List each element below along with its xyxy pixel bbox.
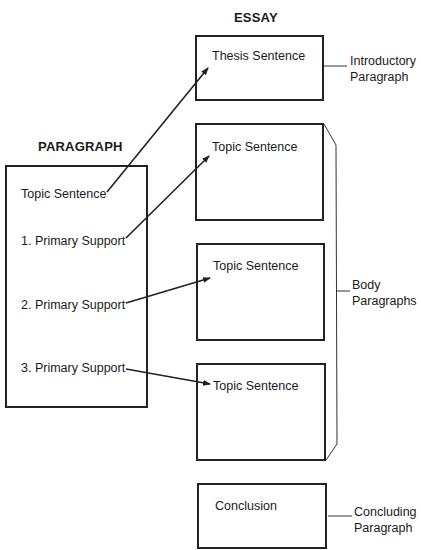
essay-box-body-3: Topic Sentence xyxy=(196,363,326,461)
paragraph-primary-support-3: 3. Primary Support xyxy=(21,361,125,375)
concluding-label-line2: Paragraph xyxy=(354,520,417,536)
concluding-label-line1: Concluding xyxy=(354,504,417,520)
thesis-sentence-text: Thesis Sentence xyxy=(212,49,305,63)
paragraph-heading: PARAGRAPH xyxy=(38,139,123,154)
paragraph-primary-support-1: 1. Primary Support xyxy=(21,234,125,248)
essay-box-body-1: Topic Sentence xyxy=(195,123,324,221)
body-2-topic-sentence-text: Topic Sentence xyxy=(213,259,298,273)
essay-box-conclusion: Conclusion xyxy=(197,483,327,549)
body-paragraphs-label: Body Paragraphs xyxy=(352,277,417,309)
essay-heading: ESSAY xyxy=(234,10,278,25)
concluding-paragraph-label: Concluding Paragraph xyxy=(354,504,417,536)
body-label-line2: Paragraphs xyxy=(352,293,417,309)
introductory-label-line1: Introductory xyxy=(350,53,416,69)
body-3-topic-sentence-text: Topic Sentence xyxy=(213,379,298,393)
introductory-label-line2: Paragraph xyxy=(350,69,416,85)
body-1-topic-sentence-text: Topic Sentence xyxy=(212,140,297,154)
essay-box-body-2: Topic Sentence xyxy=(196,243,325,341)
paragraph-topic-sentence: Topic Sentence xyxy=(21,187,106,201)
introductory-paragraph-label: Introductory Paragraph xyxy=(350,53,416,85)
body-label-line1: Body xyxy=(352,277,417,293)
conclusion-text: Conclusion xyxy=(215,499,277,513)
essay-box-thesis: Thesis Sentence xyxy=(195,35,324,101)
paragraph-box: Topic Sentence 1. Primary Support 2. Pri… xyxy=(5,165,148,408)
paragraph-primary-support-2: 2. Primary Support xyxy=(21,298,125,312)
